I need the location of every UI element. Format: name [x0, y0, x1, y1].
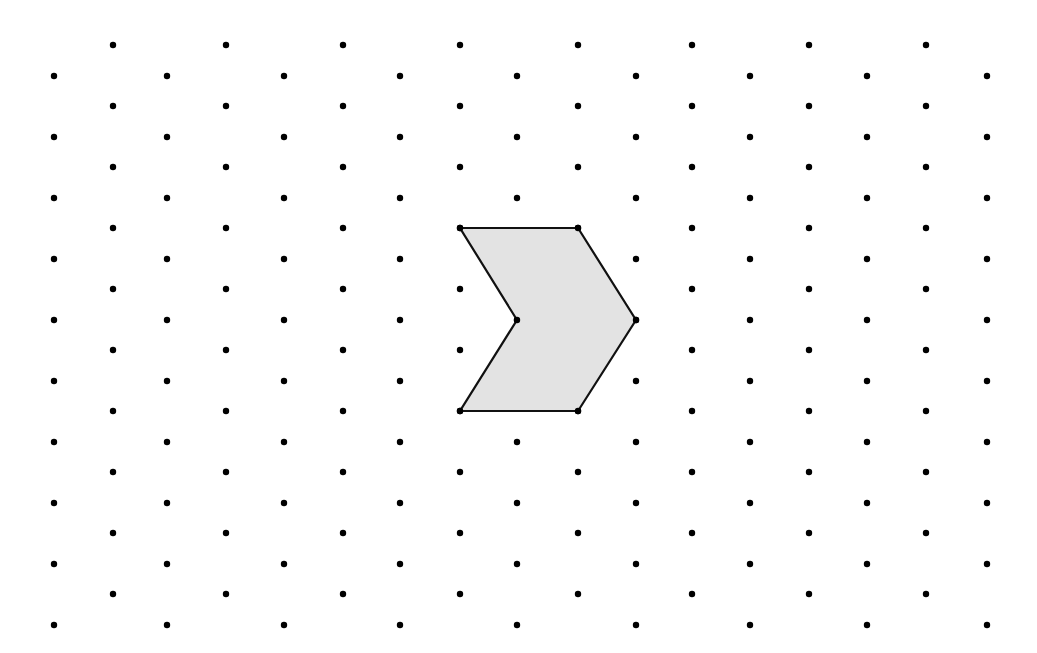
grid-dot [51, 561, 57, 567]
grid-dot [747, 622, 753, 628]
grid-dot [340, 225, 346, 231]
grid-dot [923, 530, 929, 536]
grid-dot [457, 530, 463, 536]
grid-dot [806, 469, 812, 475]
grid-dot [110, 286, 116, 292]
grid-dot [164, 561, 170, 567]
grid-dot [164, 134, 170, 140]
grid-dot [689, 347, 695, 353]
grid-dot [340, 530, 346, 536]
grid-dot [397, 73, 403, 79]
grid-dot [689, 530, 695, 536]
grid-dot [689, 286, 695, 292]
grid-dot [984, 73, 990, 79]
grid-dot [223, 469, 229, 475]
grid-dot [110, 530, 116, 536]
grid-dot [923, 42, 929, 48]
grid-dot [51, 195, 57, 201]
vertex-dot [457, 225, 463, 231]
grid-dot [51, 622, 57, 628]
grid-dot [51, 500, 57, 506]
grid-dot [457, 164, 463, 170]
grid-dot [806, 103, 812, 109]
grid-dot [689, 164, 695, 170]
grid-dot [747, 195, 753, 201]
grid-dot [281, 134, 287, 140]
grid-dot [397, 500, 403, 506]
grid-dot [340, 347, 346, 353]
grid-dot [110, 347, 116, 353]
grid-dot [923, 591, 929, 597]
grid-dot [633, 500, 639, 506]
grid-dot [864, 195, 870, 201]
grid-dot [457, 103, 463, 109]
grid-dot [457, 42, 463, 48]
grid-dot [340, 42, 346, 48]
grid-dot [633, 134, 639, 140]
grid-dot [806, 286, 812, 292]
grid-dot [51, 134, 57, 140]
grid-dot [984, 256, 990, 262]
grid-dot [923, 347, 929, 353]
grid-dot [110, 469, 116, 475]
grid-dot [633, 561, 639, 567]
grid-dot [281, 195, 287, 201]
grid-dot [984, 561, 990, 567]
grid-dot [164, 73, 170, 79]
grid-dot [575, 591, 581, 597]
grid-dot [984, 378, 990, 384]
grid-dot [281, 256, 287, 262]
grid-dot [110, 225, 116, 231]
grid-dot [164, 439, 170, 445]
grid-dot [164, 622, 170, 628]
grid-dot [457, 347, 463, 353]
grid-dot [340, 591, 346, 597]
grid-dot [223, 42, 229, 48]
grid-dot [689, 42, 695, 48]
grid-dot [457, 591, 463, 597]
grid-dot [223, 103, 229, 109]
grid-dot [633, 73, 639, 79]
grid-dot [457, 469, 463, 475]
grid-dot [984, 195, 990, 201]
grid-dot [223, 347, 229, 353]
grid-dot [806, 42, 812, 48]
grid-dot [689, 225, 695, 231]
grid-dot [514, 73, 520, 79]
grid-dot [110, 408, 116, 414]
grid-dot [747, 561, 753, 567]
grid-dot [281, 73, 287, 79]
grid-dot [340, 469, 346, 475]
grid-dot [397, 439, 403, 445]
grid-dot [340, 286, 346, 292]
grid-dot [51, 317, 57, 323]
grid-dot [984, 439, 990, 445]
grid-dot [575, 469, 581, 475]
grid-dot [747, 256, 753, 262]
grid-dot [281, 500, 287, 506]
grid-dot [747, 439, 753, 445]
grid-dot [747, 500, 753, 506]
grid-dot [633, 195, 639, 201]
grid-dot [984, 622, 990, 628]
grid-dot [984, 317, 990, 323]
grid-dot [223, 591, 229, 597]
grid-dot [689, 469, 695, 475]
grid-dot [633, 378, 639, 384]
grid-dot [223, 530, 229, 536]
grid-dot [281, 378, 287, 384]
grid-dot [397, 622, 403, 628]
grid-dot [223, 408, 229, 414]
grid-dot [281, 561, 287, 567]
grid-dot [575, 530, 581, 536]
grid-dot [223, 164, 229, 170]
grid-dot [397, 256, 403, 262]
grid-dot [51, 439, 57, 445]
grid-dot [397, 134, 403, 140]
grid-dot [747, 134, 753, 140]
grid-dot [864, 134, 870, 140]
grid-dot [110, 103, 116, 109]
grid-dot [689, 103, 695, 109]
grid-dot [514, 622, 520, 628]
grid-dot [164, 256, 170, 262]
